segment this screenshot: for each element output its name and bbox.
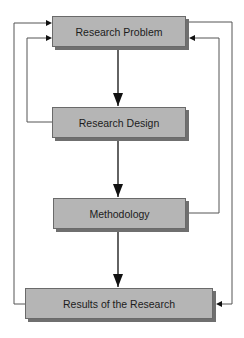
node-results-of-the-research: Results of the Research [25,288,213,319]
node-label: Methodology [89,208,149,220]
main-arrow-methodology-to-results [113,229,123,287]
node-label: Research Design [79,117,160,129]
feedback-design-to-problem [27,35,52,122]
main-arrow-design-to-methodology [113,138,123,197]
feedback-problem-to-results [188,22,232,307]
node-methodology: Methodology [53,198,186,229]
node-research-problem: Research Problem [52,16,186,47]
research-process-diagram: Research Problem Research Design Methodo… [0,0,244,338]
node-research-design: Research Design [52,107,186,138]
node-label: Results of the Research [63,298,175,310]
feedback-methodology-to-problem [188,35,219,213]
node-label: Research Problem [76,26,163,38]
feedback-results-to-problem [14,20,52,304]
main-arrow-problem-to-design [113,47,123,106]
